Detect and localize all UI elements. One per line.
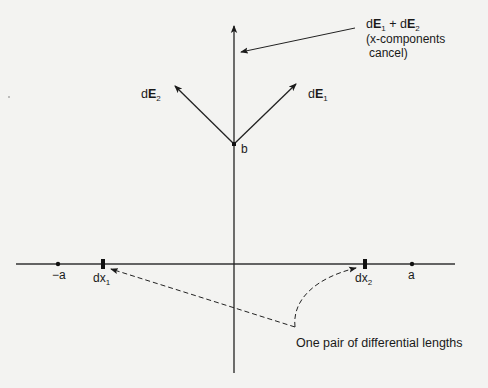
resultant-note-line1: (x-components (366, 32, 445, 46)
pair-note-label: One pair of differential lengths (296, 336, 463, 350)
point-b-dot (232, 142, 236, 146)
point-neg-a-dot (56, 262, 60, 266)
dx1-label: dx1 (93, 271, 110, 285)
dE1-label: dE1 (308, 87, 328, 101)
resultant-note-line2: cancel) (369, 46, 408, 60)
neg-a-label: −a (52, 268, 66, 282)
point-a-dot (410, 262, 414, 266)
dx2-sub: 2 (368, 278, 372, 287)
dx2-label: dx2 (355, 271, 372, 285)
dE1-vector-arrow (234, 84, 296, 144)
pos-a-label: a (408, 268, 415, 282)
dE2-sub: 2 (156, 94, 160, 103)
dE1-d: d (308, 87, 315, 101)
dx1-segment (101, 259, 105, 269)
dx1-base: dx (93, 271, 106, 285)
dashed-arrow-to-dx1 (111, 269, 295, 327)
sum-d1: d (366, 17, 373, 31)
dE2-vector-arrow (175, 86, 234, 144)
sum-d2: d (400, 17, 407, 31)
dashed-curve-to-dx2 (295, 268, 356, 327)
dE2-label: dE2 (141, 87, 161, 101)
resultant-pointer-arrow (241, 28, 355, 52)
stray-dot (8, 96, 10, 98)
sum-plus: + (386, 17, 400, 31)
resultant-label: dE1 + dE2 (366, 17, 420, 31)
dx2-base: dx (355, 271, 368, 285)
point-b-label: b (241, 142, 248, 156)
field-diagram (0, 0, 488, 388)
dx1-sub: 1 (106, 278, 110, 287)
dE1-sub: 1 (323, 94, 327, 103)
dE2-d: d (141, 87, 148, 101)
dx2-segment (363, 259, 367, 269)
